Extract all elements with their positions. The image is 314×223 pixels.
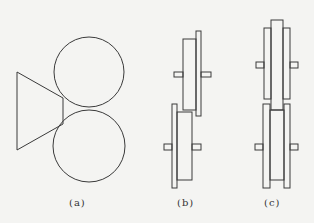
lower-wheel-center <box>270 110 284 180</box>
lower-wheel-shaft-left <box>164 144 172 150</box>
upper-wheel-shaft-right <box>290 62 298 68</box>
lower-wheel-flange-right <box>284 104 290 188</box>
panel-a <box>17 37 125 182</box>
upper-wheel-shaft-right <box>201 72 211 77</box>
lower-wheel-body <box>177 112 192 180</box>
upper-wheel-center <box>271 20 283 110</box>
upper-wheel-body <box>183 39 196 110</box>
panel-c-label: (c) <box>264 197 280 208</box>
lower-circle <box>53 110 125 182</box>
lower-wheel-shaft-right <box>290 144 298 150</box>
diagram-canvas <box>0 0 314 223</box>
upper-circle <box>54 37 124 107</box>
lower-wheel-shaft-left <box>255 144 263 150</box>
upper-wheel-flange-left <box>264 28 271 99</box>
panel-c <box>255 20 298 188</box>
lower-wheel-flange <box>172 104 177 188</box>
lower-wheel-flange-left <box>263 104 270 188</box>
upper-wheel-shaft-left <box>174 72 183 77</box>
lower-wheel-shaft-right <box>192 144 201 150</box>
upper-wheel-flange-right <box>283 28 290 99</box>
upper-wheel-flange <box>196 31 201 116</box>
panel-b-label: (b) <box>177 197 194 208</box>
upper-wheel-shaft-left <box>256 62 264 68</box>
panel-b <box>164 31 211 188</box>
panel-a-label: (a) <box>69 197 86 208</box>
